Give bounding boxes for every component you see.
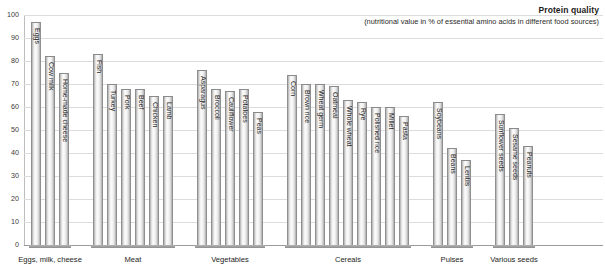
bar: Rye: [357, 102, 367, 245]
group-label-various-seeds: Various seeds: [455, 255, 573, 264]
bar-label: Oatmeal: [330, 92, 340, 118]
bar-label-wrap: Rye: [358, 105, 367, 245]
bar-label-wrap: Oatmeal: [330, 89, 339, 245]
bars-layer: EggsCow milkHome-made cheeseEggs, milk, …: [0, 0, 605, 267]
bar-label: Beef: [136, 95, 146, 109]
bar: Oatmeal: [329, 86, 339, 245]
protein-quality-chart: Protein quality (nutritional value in % …: [0, 0, 605, 267]
group-baseline: [285, 245, 411, 248]
bar: Asparagus: [197, 70, 207, 245]
bar-label-wrap: Soybeans: [434, 105, 443, 245]
bar-label: Cauliflower: [226, 97, 236, 132]
bar: Lentils: [461, 160, 471, 245]
bar-label: Peanuts: [524, 152, 534, 178]
bar-label-wrap: Peanuts: [524, 149, 533, 245]
bar-label-wrap: Lamb: [164, 99, 173, 246]
bar: Millet: [385, 107, 395, 245]
bar-label: Millet: [386, 113, 396, 129]
bar-label: Potatoes: [240, 95, 250, 123]
bar: Whole wheat: [343, 100, 353, 245]
bar-label: Pasta: [400, 122, 410, 140]
bar-label: Home-made cheese: [60, 79, 70, 142]
bar: Lamb: [163, 96, 173, 246]
bar-label-wrap: Cow milk: [46, 59, 55, 245]
bar: Chicken: [149, 96, 159, 246]
bar: Turkey: [107, 84, 117, 245]
group-baseline: [431, 245, 473, 248]
bar: Broccoli: [211, 89, 221, 245]
bar-label-wrap: Sesame seeds: [510, 131, 519, 245]
bar: Peanuts: [523, 146, 533, 245]
bar-label: Polished rice: [372, 113, 382, 153]
bar: Cow milk: [45, 56, 55, 245]
bar-label: Sesame seeds: [510, 134, 520, 180]
bar-label-wrap: Sunflower seeds: [496, 117, 505, 245]
bar-label: Lentils: [462, 166, 472, 186]
bar-label-wrap: Millet: [386, 110, 395, 245]
bar-label: Peas: [254, 118, 264, 134]
bar-label-wrap: Polished rice: [372, 110, 381, 245]
bar-label: Rye: [358, 108, 368, 120]
bar-label: Whole wheat: [344, 106, 354, 146]
bar-label: Soybeans: [434, 108, 444, 139]
group-baseline: [195, 245, 265, 248]
bar-label-wrap: Home-made cheese: [60, 76, 69, 246]
bar: Brown rice: [301, 84, 311, 245]
bar-label-wrap: Fish: [94, 57, 103, 245]
bar-label: Corn: [288, 81, 298, 96]
bar: Potatoes: [239, 89, 249, 245]
group-baseline: [493, 245, 535, 248]
bar-label: Lamb: [164, 102, 174, 120]
group-baseline: [91, 245, 175, 248]
bar-label: Fish: [94, 60, 104, 73]
bar-label-wrap: Beans: [448, 151, 457, 245]
bar: Pasta: [399, 116, 409, 245]
bar-label: Chicken: [150, 102, 160, 127]
bar: Sunflower seeds: [495, 114, 505, 245]
bar-label: Broccoli: [212, 95, 222, 120]
bar-label-wrap: Potatoes: [240, 92, 249, 245]
bar-label: Asparagus: [198, 76, 208, 109]
bar-label: Pork: [122, 95, 132, 109]
bar: Polished rice: [371, 107, 381, 245]
bar-label: Brown rice: [302, 90, 312, 123]
bar: Cauliflower: [225, 91, 235, 245]
bar-label: Sunflower seeds: [496, 120, 506, 172]
bar: Sesame seeds: [509, 128, 519, 245]
bar-label-wrap: Asparagus: [198, 73, 207, 245]
bar-label: Eggs: [32, 28, 42, 44]
bar-label-wrap: Corn: [288, 78, 297, 245]
bar: Beef: [135, 89, 145, 245]
bar-label-wrap: Beef: [136, 92, 145, 245]
bar-label-wrap: Wheat germ: [316, 87, 325, 245]
bar-label-wrap: Lentils: [462, 163, 471, 245]
bar: Eggs: [31, 22, 41, 245]
bar: Home-made cheese: [59, 73, 69, 246]
bar-label-wrap: Turkey: [108, 87, 117, 245]
bar-label: Wheat germ: [316, 90, 326, 128]
bar-label-wrap: Cauliflower: [226, 94, 235, 245]
bar: Corn: [287, 75, 297, 245]
group-baseline: [29, 245, 71, 248]
bar: Beans: [447, 148, 457, 245]
bar-label-wrap: Pork: [122, 92, 131, 245]
bar-label-wrap: Peas: [254, 115, 263, 245]
bar: Fish: [93, 54, 103, 245]
bar: Wheat germ: [315, 84, 325, 245]
bar-label-wrap: Brown rice: [302, 87, 311, 245]
bar-label-wrap: Chicken: [150, 99, 159, 246]
bar-label: Cow milk: [46, 62, 56, 90]
bar-label-wrap: Pasta: [400, 119, 409, 245]
bar-label-wrap: Broccoli: [212, 92, 221, 245]
bar: Peas: [253, 112, 263, 245]
bar: Pork: [121, 89, 131, 245]
bar-label: Turkey: [108, 90, 118, 111]
bar-label: Beans: [448, 154, 458, 174]
bar-label-wrap: Whole wheat: [344, 103, 353, 245]
bar: Soybeans: [433, 102, 443, 245]
bar-label-wrap: Eggs: [32, 25, 41, 245]
